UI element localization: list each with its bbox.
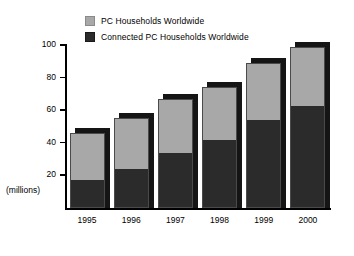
y-axis-line bbox=[65, 44, 67, 209]
chart-legend: PC Households Worldwide Connected PC Hou… bbox=[85, 14, 315, 46]
bar-body-1998[interactable] bbox=[202, 87, 237, 208]
segment-pc-households-1996[interactable] bbox=[115, 119, 148, 168]
gray-swatch-icon bbox=[85, 16, 95, 26]
legend-label-connected-pc-households: Connected PC Households Worldwide bbox=[101, 32, 249, 42]
y-tick-label-20: 20 bbox=[16, 170, 56, 179]
bar-body-1995[interactable] bbox=[70, 133, 105, 208]
segment-pc-households-2000[interactable] bbox=[291, 48, 324, 106]
legend-label-pc-households: PC Households Worldwide bbox=[101, 16, 204, 26]
bar-body-2000[interactable] bbox=[290, 47, 325, 208]
segment-connected-pc-households-2000[interactable] bbox=[291, 106, 324, 207]
y-tick-mark-20 bbox=[60, 174, 66, 176]
y-axis-units-label: (millions) bbox=[6, 186, 40, 195]
bar-1997[interactable] bbox=[158, 94, 198, 208]
bar-body-1996[interactable] bbox=[114, 118, 149, 208]
y-tick-mark-100 bbox=[60, 44, 66, 46]
dark-swatch-icon bbox=[85, 32, 95, 42]
segment-pc-households-1998[interactable] bbox=[203, 88, 236, 139]
y-tick-label-60: 60 bbox=[16, 105, 56, 114]
x-tick-label-1999: 1999 bbox=[240, 215, 287, 225]
bar-body-1999[interactable] bbox=[246, 63, 281, 208]
bar-1995[interactable] bbox=[70, 128, 110, 208]
y-tick-mark-60 bbox=[60, 109, 66, 111]
bar-1999[interactable] bbox=[246, 58, 286, 208]
segment-pc-households-1995[interactable] bbox=[71, 134, 104, 180]
legend-item-pc-households: PC Households Worldwide bbox=[85, 14, 315, 27]
segment-connected-pc-households-1995[interactable] bbox=[71, 180, 104, 207]
segment-pc-households-1999[interactable] bbox=[247, 64, 280, 120]
x-axis-line bbox=[65, 208, 331, 210]
segment-connected-pc-households-1997[interactable] bbox=[159, 153, 192, 207]
legend-item-connected-pc-households: Connected PC Households Worldwide bbox=[85, 30, 315, 43]
x-tick-label-1996: 1996 bbox=[108, 215, 155, 225]
stacked-bar-chart: PC Households Worldwide Connected PC Hou… bbox=[0, 0, 354, 256]
y-tick-mark-80 bbox=[60, 77, 66, 79]
bar-body-1997[interactable] bbox=[158, 99, 193, 208]
x-tick-label-1997: 1997 bbox=[152, 215, 199, 225]
x-tick-label-1998: 1998 bbox=[196, 215, 243, 225]
y-tick-label-40: 40 bbox=[16, 138, 56, 147]
segment-connected-pc-households-1996[interactable] bbox=[115, 169, 148, 207]
segment-pc-households-1997[interactable] bbox=[159, 100, 192, 153]
segment-connected-pc-households-1999[interactable] bbox=[247, 120, 280, 207]
y-tick-label-80: 80 bbox=[16, 73, 56, 82]
bar-2000[interactable] bbox=[290, 42, 330, 208]
segment-connected-pc-households-1998[interactable] bbox=[203, 140, 236, 207]
x-tick-label-1995: 1995 bbox=[64, 215, 111, 225]
y-tick-mark-40 bbox=[60, 142, 66, 144]
bar-1996[interactable] bbox=[114, 113, 154, 208]
bar-1998[interactable] bbox=[202, 82, 242, 208]
x-tick-label-2000: 2000 bbox=[284, 215, 331, 225]
y-tick-label-100: 100 bbox=[16, 40, 56, 49]
